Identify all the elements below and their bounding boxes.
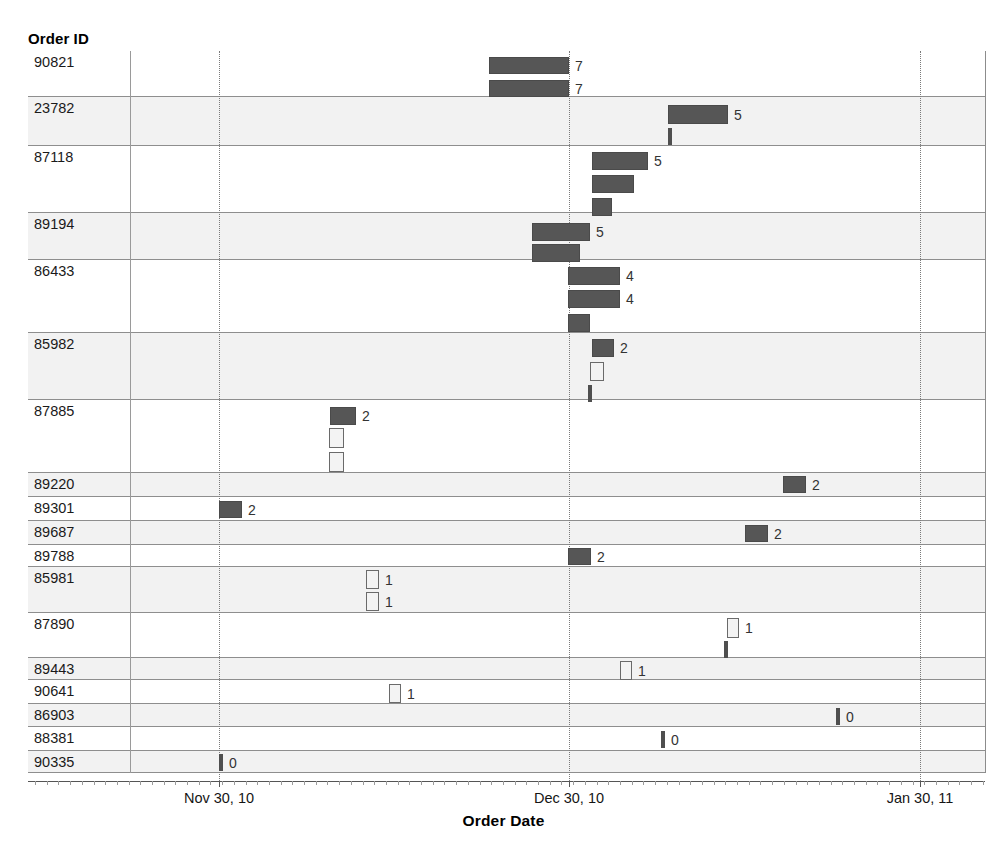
x-minor-tick — [117, 781, 118, 785]
bar-90821-1[interactable] — [489, 80, 569, 97]
bar-value-label: 2 — [362, 409, 370, 423]
bar-87118-1[interactable] — [592, 175, 634, 193]
bar-87885-1[interactable] — [329, 428, 344, 448]
bar-85981-0[interactable] — [366, 570, 379, 589]
chart-row: 86433 — [28, 260, 985, 333]
row-label-86903: 86903 — [34, 706, 74, 724]
x-minor-tick — [105, 781, 106, 785]
row-label-89687: 89687 — [34, 523, 74, 541]
x-minor-tick — [796, 781, 797, 785]
x-minor-tick — [269, 781, 270, 785]
bar-23782-1[interactable] — [668, 128, 672, 145]
row-label-86433: 86433 — [34, 262, 74, 280]
x-minor-tick — [632, 781, 633, 785]
bar-85982-2[interactable] — [588, 385, 592, 402]
x-minor-tick — [819, 781, 820, 785]
bar-85982-1[interactable] — [590, 362, 604, 381]
bar-89301-0[interactable] — [219, 501, 242, 518]
x-axis-title: Order Date — [0, 812, 1007, 830]
bar-86433-2[interactable] — [568, 314, 590, 332]
bar-89443-0[interactable] — [620, 661, 632, 680]
chart-row: 90335 — [28, 751, 985, 773]
bar-90821-0[interactable] — [489, 57, 569, 74]
x-minor-tick — [854, 781, 855, 785]
x-minor-tick — [784, 781, 785, 785]
x-minor-tick — [456, 781, 457, 785]
chart-row: 87118 — [28, 146, 985, 213]
bar-value-label: 2 — [248, 503, 256, 517]
row-label-87885: 87885 — [34, 402, 74, 420]
x-minor-tick — [175, 781, 176, 785]
bar-87885-2[interactable] — [329, 452, 344, 472]
x-minor-tick — [444, 781, 445, 785]
x-minor-tick — [281, 781, 282, 785]
x-minor-tick — [597, 781, 598, 785]
chart-row: 86903 — [28, 704, 985, 727]
x-minor-tick — [690, 781, 691, 785]
bar-88381-0[interactable] — [661, 731, 665, 748]
chart-row: 89194 — [28, 213, 985, 260]
bar-87890-0[interactable] — [727, 618, 739, 638]
x-minor-tick — [573, 781, 574, 785]
x-minor-tick — [842, 781, 843, 785]
x-tick-0 — [219, 781, 220, 787]
x-minor-tick — [760, 781, 761, 785]
x-minor-tick — [164, 781, 165, 785]
bar-89788-0[interactable] — [568, 548, 591, 565]
x-minor-tick — [936, 781, 937, 785]
bar-89220-0[interactable] — [783, 476, 806, 493]
bar-89687-0[interactable] — [745, 525, 768, 542]
row-label-85982: 85982 — [34, 335, 74, 353]
bar-87118-0[interactable] — [592, 152, 648, 170]
bar-87890-1[interactable] — [724, 641, 728, 658]
row-label-90335: 90335 — [34, 753, 74, 771]
bar-86903-0[interactable] — [836, 708, 840, 725]
x-minor-tick — [714, 781, 715, 785]
bar-85982-0[interactable] — [592, 339, 614, 357]
x-minor-tick — [959, 781, 960, 785]
bar-value-label: 1 — [385, 573, 393, 587]
x-minor-tick — [550, 781, 551, 785]
x-minor-tick — [363, 781, 364, 785]
bar-23782-0[interactable] — [668, 105, 728, 124]
x-minor-tick — [304, 781, 305, 785]
row-label-89301: 89301 — [34, 499, 74, 517]
bar-85981-1[interactable] — [366, 592, 379, 611]
bar-90641-0[interactable] — [389, 684, 401, 703]
chart-row: 89220 — [28, 473, 985, 497]
x-minor-tick — [433, 781, 434, 785]
x-minor-tick — [901, 781, 902, 785]
bar-value-label: 7 — [575, 82, 583, 96]
x-minor-tick — [889, 781, 890, 785]
bar-87118-2[interactable] — [592, 198, 612, 216]
x-minor-tick — [924, 781, 925, 785]
x-minor-tick — [339, 781, 340, 785]
bar-value-label: 4 — [626, 269, 634, 283]
bar-86433-1[interactable] — [568, 290, 620, 308]
chart-row: 89687 — [28, 521, 985, 545]
x-minor-tick — [351, 781, 352, 785]
x-minor-tick — [679, 781, 680, 785]
chart-row: 89301 — [28, 497, 985, 521]
x-minor-tick — [140, 781, 141, 785]
x-minor-tick — [866, 781, 867, 785]
bar-90335-0[interactable] — [219, 754, 223, 771]
x-minor-tick — [58, 781, 59, 785]
chart-row: 88381 — [28, 727, 985, 751]
x-minor-tick — [971, 781, 972, 785]
bar-87885-0[interactable] — [330, 407, 356, 425]
x-minor-tick — [234, 781, 235, 785]
x-minor-tick — [667, 781, 668, 785]
gridline-1 — [569, 51, 570, 781]
bar-89194-0[interactable] — [532, 223, 590, 241]
x-minor-tick — [480, 781, 481, 785]
x-minor-tick — [327, 781, 328, 785]
x-minor-tick — [749, 781, 750, 785]
bar-value-label: 0 — [846, 710, 854, 724]
bar-86433-0[interactable] — [568, 267, 620, 285]
gridline-2 — [920, 51, 921, 781]
bar-value-label: 1 — [745, 621, 753, 635]
x-minor-tick — [503, 781, 504, 785]
bar-89194-1[interactable] — [532, 244, 580, 262]
x-tick-label: Jan 30, 11 — [887, 790, 954, 806]
